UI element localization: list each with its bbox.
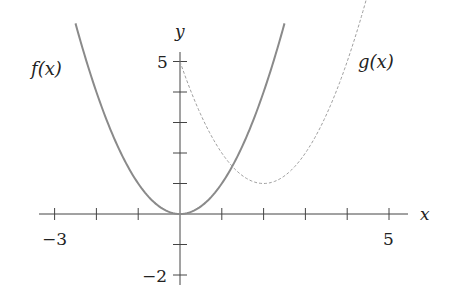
f-label: f(x) — [29, 58, 62, 79]
x-tick-label-max: 5 — [383, 229, 394, 249]
function-plot: x y −3 5 5 −2 f(x) g(x) — [0, 0, 453, 303]
curves — [76, 0, 367, 214]
g-label: g(x) — [358, 51, 394, 72]
x-axis-label: x — [420, 204, 430, 224]
x-tick-label-min: −3 — [42, 229, 67, 249]
g-curve — [180, 0, 366, 183]
y-tick-label-min: −2 — [142, 266, 167, 286]
y-axis-label: y — [174, 21, 185, 41]
y-tick-label-max: 5 — [157, 52, 168, 72]
